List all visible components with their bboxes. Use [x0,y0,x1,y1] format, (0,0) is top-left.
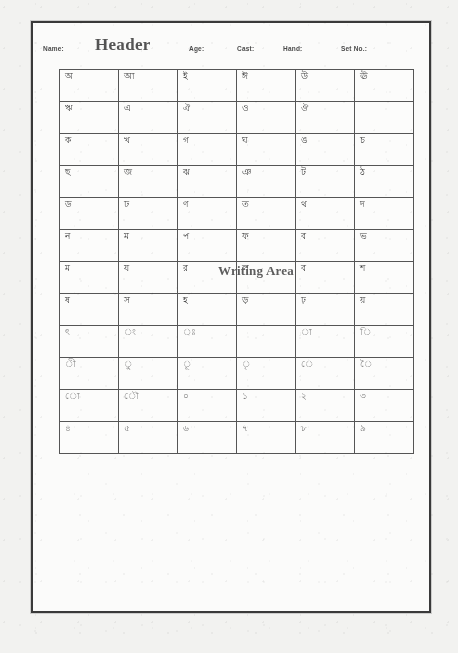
writing-cell[interactable]: ঝ [178,166,237,198]
grid-row: োৌ০১২৩ [60,390,414,422]
grid-row: ৎংঃাি [60,326,414,358]
writing-cell[interactable]: অ [60,70,119,102]
writing-cell[interactable]: ১ [237,390,296,422]
writing-cell[interactable]: ৈ [355,358,414,390]
writing-cell[interactable]: ড [60,198,119,230]
cell-glyph: ফ [242,231,249,242]
cell-glyph: ৩ [360,391,366,402]
writing-cell[interactable]: ঢ [119,198,178,230]
writing-cell[interactable]: ড় [237,294,296,326]
writing-cell[interactable]: ফ [237,230,296,262]
cell-glyph: থ [301,199,307,210]
writing-cell[interactable]: ঙ [296,134,355,166]
writing-cell[interactable]: ২ [296,390,355,422]
cell-glyph: ূ [183,359,191,370]
writing-cell[interactable]: আ [119,70,178,102]
cell-glyph: ৎ [65,327,70,338]
writing-cell[interactable]: ঈ [237,70,296,102]
cell-glyph: ম [124,231,129,242]
writing-cell[interactable]: ৭ [237,422,296,454]
writing-grid: অআইঈউঊঋএঐওঔকখগঘঙচছজঝঞটঠডঢণতথদনমপফবভমযরলব… [59,69,414,454]
cell-glyph: খ [124,135,130,146]
grid-row: নমপফবভ [60,230,414,262]
writing-cell[interactable]: হ [178,294,237,326]
writing-cell[interactable]: খ [119,134,178,166]
writing-cell[interactable]: এ [119,102,178,134]
writing-cell[interactable]: ত [237,198,296,230]
writing-cell[interactable]: ী [60,358,119,390]
writing-cell[interactable]: শ [355,262,414,294]
writing-cell[interactable]: প [178,230,237,262]
cell-glyph: ঘ [242,135,248,146]
writing-cell[interactable]: ৌ [119,390,178,422]
writing-cell[interactable]: ৮ [296,422,355,454]
writing-cell[interactable]: ূ [178,358,237,390]
writing-cell[interactable]: ঃ [178,326,237,358]
writing-cell[interactable]: দ [355,198,414,230]
writing-cell[interactable]: স [119,294,178,326]
writing-cell[interactable]: ব [296,262,355,294]
writing-cell[interactable]: ভ [355,230,414,262]
writing-cell[interactable]: য [119,262,178,294]
writing-cell[interactable]: ৎ [60,326,119,358]
writing-cell[interactable]: ট [296,166,355,198]
writing-cell[interactable]: ৪ [60,422,119,454]
writing-cell[interactable]: ই [178,70,237,102]
cell-glyph: ৬ [183,423,189,434]
writing-cell[interactable]: ঔ [296,102,355,134]
writing-cell[interactable]: ৫ [119,422,178,454]
cell-glyph: ৌ [124,391,139,402]
writing-cell[interactable]: জ [119,166,178,198]
writing-cell[interactable]: ম [60,262,119,294]
writing-cell[interactable]: ো [60,390,119,422]
writing-cell[interactable]: ং [119,326,178,358]
grid-row: ছজঝঞটঠ [60,166,414,198]
writing-cell[interactable]: ঘ [237,134,296,166]
cell-glyph: আ [124,71,135,82]
writing-cell[interactable]: ি [355,326,414,358]
cell-glyph: ং [124,327,136,338]
writing-cell[interactable]: গ [178,134,237,166]
scanned-page: Name: Header Age: Cast: Hand: Set No.: অ… [0,0,458,653]
writing-cell[interactable]: ও [237,102,296,134]
cell-glyph: ঞ [242,167,252,178]
grid-row: ীুূৃেৈ [60,358,414,390]
cell-glyph: ক [65,135,71,146]
writing-cell[interactable]: ঋ [60,102,119,134]
field-label-hand: Hand: [283,45,302,52]
writing-cell[interactable]: ষ [60,294,119,326]
writing-cell[interactable]: ৯ [355,422,414,454]
writing-cell[interactable] [237,326,296,358]
writing-cell[interactable]: ে [296,358,355,390]
writing-cell[interactable]: ম [119,230,178,262]
writing-cell[interactable]: থ [296,198,355,230]
writing-cell[interactable]: ঠ [355,166,414,198]
writing-cell[interactable]: ঢ় [296,294,355,326]
writing-cell[interactable]: য় [355,294,414,326]
cell-glyph: ঢ [124,199,129,210]
writing-cell[interactable]: ৃ [237,358,296,390]
cell-glyph: ১ [242,391,248,402]
grid-row: মযরলবশ [60,262,414,294]
writing-cell[interactable]: ব [296,230,355,262]
writing-cell[interactable]: র [178,262,237,294]
writing-cell[interactable]: ছ [60,166,119,198]
writing-cell[interactable]: া [296,326,355,358]
writing-cell[interactable]: ৬ [178,422,237,454]
cell-glyph: ৭ [242,423,248,434]
writing-cell[interactable]: উ [296,70,355,102]
writing-cell[interactable]: ০ [178,390,237,422]
writing-cell[interactable]: ঊ [355,70,414,102]
writing-cell[interactable] [355,102,414,134]
writing-cell[interactable]: ঐ [178,102,237,134]
writing-cell[interactable]: চ [355,134,414,166]
writing-cell[interactable]: ণ [178,198,237,230]
writing-cell[interactable]: ৩ [355,390,414,422]
writing-cell[interactable]: ু [119,358,178,390]
writing-cell[interactable]: ল [237,262,296,294]
cell-glyph: ঝ [183,167,190,178]
writing-cell[interactable]: ক [60,134,119,166]
writing-cell[interactable]: ন [60,230,119,262]
cell-glyph: া [301,327,312,338]
writing-cell[interactable]: ঞ [237,166,296,198]
